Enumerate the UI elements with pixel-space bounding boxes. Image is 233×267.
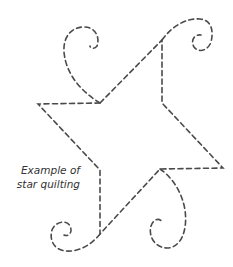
curl-bottom-right: [150, 169, 185, 248]
star-outline: [38, 40, 223, 234]
star-quilting-diagram: [0, 0, 233, 267]
caption-line-1: Example of: [8, 163, 80, 177]
curl-top-left: [64, 27, 100, 103]
curl-bottom-left: [51, 222, 100, 251]
caption: Example of star quilting: [8, 163, 80, 191]
caption-line-2: star quilting: [8, 177, 80, 191]
curl-top-right: [162, 19, 212, 51]
